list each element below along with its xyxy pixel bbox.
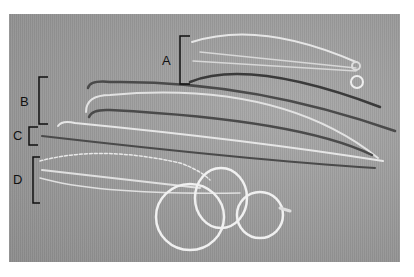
instruments-photo (9, 14, 400, 262)
group-d-instruments (40, 153, 290, 250)
label-d: D (13, 172, 22, 187)
label-c: C (13, 128, 22, 143)
label-b: B (20, 94, 29, 109)
label-a: A (162, 53, 171, 68)
instruments-drawing (9, 14, 400, 262)
